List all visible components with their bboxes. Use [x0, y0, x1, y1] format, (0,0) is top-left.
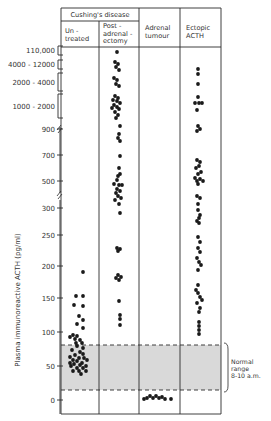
- data-point: [163, 397, 167, 401]
- data-point: [118, 139, 122, 143]
- data-point: [81, 304, 85, 308]
- data-point: [118, 211, 122, 215]
- data-point: [195, 256, 199, 260]
- data-point: [118, 124, 122, 128]
- data-point: [112, 182, 116, 186]
- y-tick-label: 200: [42, 263, 55, 271]
- column-header-label: treated: [65, 35, 89, 43]
- data-point: [75, 344, 79, 348]
- data-point: [71, 369, 75, 373]
- data-point: [113, 110, 117, 114]
- data-point: [118, 323, 122, 327]
- data-point: [115, 178, 119, 182]
- data-point: [111, 98, 115, 102]
- data-point: [196, 268, 200, 272]
- data-point: [115, 50, 119, 54]
- data-point: [116, 174, 120, 178]
- data-point: [79, 372, 83, 376]
- data-point: [199, 263, 203, 267]
- data-point: [75, 359, 79, 363]
- data-point: [77, 314, 81, 318]
- y-tick-label: 100: [42, 329, 55, 337]
- data-point: [193, 101, 197, 105]
- data-point: [117, 132, 121, 136]
- column-header-label: ACTH: [186, 32, 204, 40]
- y-range-label: 4000 - 12000: [8, 61, 55, 69]
- data-point: [117, 107, 121, 111]
- data-point: [195, 301, 199, 305]
- data-point: [195, 129, 199, 133]
- y-range-label: 110,000: [26, 47, 55, 55]
- data-point: [201, 179, 205, 183]
- column-header-label: tumour: [145, 32, 169, 40]
- normal-range-text: Normal: [231, 358, 254, 365]
- data-point: [197, 221, 201, 225]
- data-point: [197, 310, 201, 314]
- data-point: [200, 298, 204, 302]
- data-point: [197, 328, 201, 332]
- data-point: [117, 166, 121, 170]
- data-point: [71, 358, 75, 362]
- data-point: [196, 208, 200, 212]
- normal-range-text: 8-10 a.m.: [231, 372, 261, 379]
- data-point: [196, 72, 200, 76]
- data-point: [118, 154, 122, 158]
- data-point: [169, 397, 173, 401]
- y-tick-label: 500: [42, 178, 55, 186]
- data-point: [196, 182, 200, 186]
- data-point: [198, 160, 202, 164]
- acth-chart: Cushing's diseaseUn -treatedPost -adrena…: [0, 0, 271, 421]
- data-point: [85, 358, 89, 362]
- data-point: [198, 250, 202, 254]
- data-point: [120, 183, 124, 187]
- column-header-label: ectomy: [103, 37, 128, 45]
- data-point: [197, 332, 201, 336]
- data-point: [195, 108, 199, 112]
- data-point: [80, 341, 84, 345]
- data-point: [70, 348, 74, 352]
- data-point: [81, 352, 85, 356]
- data-point: [78, 363, 82, 367]
- data-point: [74, 294, 78, 298]
- data-point: [117, 202, 121, 206]
- data-point: [69, 364, 73, 368]
- y-tick-label: 50: [46, 363, 55, 371]
- data-point: [197, 320, 201, 324]
- data-point: [197, 324, 201, 328]
- y-range-label: 1000 - 2000: [12, 103, 55, 111]
- data-point: [81, 346, 85, 350]
- y-axis-label: Plasma immunoreactive ACTH (pg/ml): [14, 233, 22, 367]
- data-point: [81, 326, 85, 330]
- y-tick-label: 900: [42, 126, 55, 134]
- data-point: [84, 369, 88, 373]
- y-tick-label: 150: [42, 295, 55, 303]
- data-point: [118, 101, 122, 105]
- data-point: [196, 67, 200, 71]
- data-point: [196, 202, 200, 206]
- data-point: [81, 294, 85, 298]
- data-point: [68, 335, 72, 339]
- y-tick-label: 0: [51, 397, 55, 405]
- data-point: [198, 240, 202, 244]
- data-point: [194, 166, 198, 170]
- data-point: [119, 196, 123, 200]
- data-point: [117, 84, 121, 88]
- data-point: [117, 278, 121, 282]
- y-tick-label: 300: [42, 205, 55, 213]
- data-point: [81, 270, 85, 274]
- data-point: [75, 322, 79, 326]
- data-point: [116, 249, 120, 253]
- data-point: [118, 313, 122, 317]
- data-point: [81, 366, 85, 370]
- data-point: [115, 78, 119, 82]
- data-point: [198, 306, 202, 310]
- y-range-label: 2000 - 4000: [12, 79, 55, 87]
- data-point: [114, 65, 118, 69]
- data-point: [117, 299, 121, 303]
- data-point: [114, 116, 118, 120]
- data-point: [196, 291, 200, 295]
- data-point: [196, 235, 200, 239]
- data-point: [73, 353, 77, 357]
- data-point: [110, 106, 114, 110]
- y-tick-label: 700: [42, 152, 55, 160]
